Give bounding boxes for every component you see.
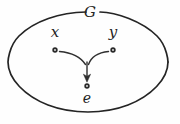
edge-x-to-merge [60,52,86,65]
group-diagram-figure: G x y e [0,0,180,124]
element-dot-e [84,83,89,88]
diagram-canvas [0,0,180,124]
element-dot-y [110,47,115,52]
set-boundary-arc-right [100,12,168,62]
set-boundary-ellipse [8,12,168,112]
set-boundary-arc-left [8,12,168,112]
element-dot-x [52,47,57,52]
edge-y-to-merge [89,52,109,65]
